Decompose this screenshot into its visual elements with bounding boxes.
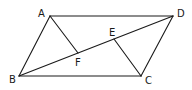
label-d: D xyxy=(177,8,185,19)
segment-ab xyxy=(19,16,50,76)
segment-ce xyxy=(114,39,141,76)
segment-dc xyxy=(141,16,173,76)
parallelogram-diagram: A D B C E F xyxy=(0,0,192,90)
label-e: E xyxy=(109,27,115,38)
segment-bd-diagonal xyxy=(19,16,173,76)
label-b: B xyxy=(9,74,16,85)
label-a: A xyxy=(38,8,45,19)
segment-af xyxy=(50,16,78,53)
label-c: C xyxy=(145,75,152,86)
label-f: F xyxy=(75,57,81,68)
